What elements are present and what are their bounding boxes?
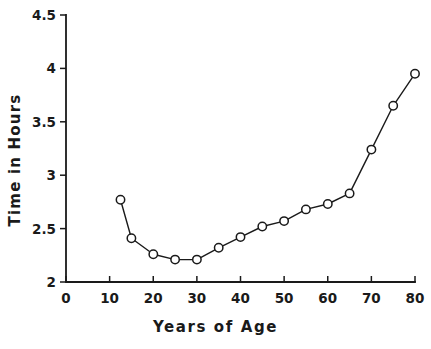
y-tick-label: 2	[0, 274, 64, 290]
data-markers-series-0	[116, 70, 419, 264]
x-tick-label: 20	[133, 290, 173, 306]
x-axis-title: Years of Age	[0, 318, 431, 336]
data-point-marker	[236, 233, 244, 241]
data-point-marker	[324, 200, 332, 208]
data-point-marker	[215, 244, 223, 252]
data-point-marker	[367, 145, 375, 153]
x-tick-label: 70	[351, 290, 391, 306]
y-tick-label: 2.5	[0, 221, 64, 237]
y-tick-label: 4	[0, 60, 64, 76]
y-tick-label: 4.5	[0, 7, 64, 23]
x-tick-label: 50	[264, 290, 304, 306]
x-tick-label: 60	[308, 290, 348, 306]
data-point-marker	[171, 255, 179, 263]
data-point-marker	[302, 205, 310, 213]
data-point-marker	[280, 217, 288, 225]
data-point-marker	[389, 102, 397, 110]
data-point-marker	[258, 222, 266, 230]
data-point-marker	[116, 196, 124, 204]
x-tick-label: 10	[90, 290, 130, 306]
y-tick-label: 3	[0, 167, 64, 183]
data-point-marker	[149, 250, 157, 258]
data-point-marker	[411, 70, 419, 78]
data-point-marker	[193, 255, 201, 263]
chart-figure: Time in Hours 22.533.544.5 0102030405060…	[0, 0, 431, 349]
x-tick-label: 0	[46, 290, 86, 306]
data-line-series-0	[121, 74, 416, 260]
x-tick-label: 40	[221, 290, 261, 306]
data-point-marker	[345, 189, 353, 197]
x-tick-label: 80	[395, 290, 431, 306]
axis-ticks	[60, 15, 415, 282]
data-point-marker	[127, 234, 135, 242]
x-tick-label: 30	[177, 290, 217, 306]
y-tick-label: 3.5	[0, 114, 64, 130]
